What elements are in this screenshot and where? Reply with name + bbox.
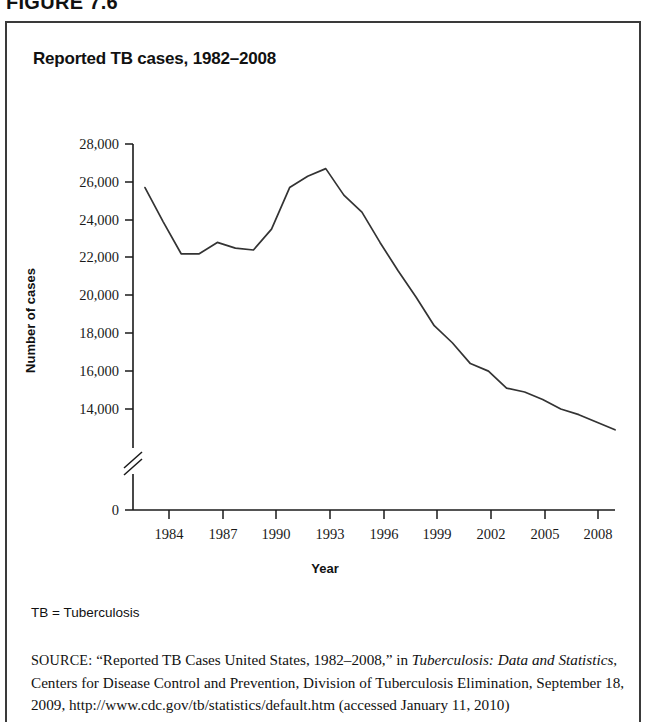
y-tick-label: 18,000 — [79, 325, 119, 341]
source-prefix: SOURCE: — [31, 652, 92, 668]
x-tick-label: 1990 — [262, 526, 291, 542]
x-tick-marks — [169, 510, 598, 519]
x-tick-label: 1993 — [316, 526, 345, 542]
x-tick-label: 1984 — [155, 526, 185, 542]
data-series-line — [145, 169, 615, 430]
x-tick-label: 2008 — [584, 526, 613, 542]
source-note: SOURCE: “Reported TB Cases United States… — [31, 649, 631, 717]
y-tick-label: 14,000 — [79, 401, 119, 417]
axis-break-icon — [124, 452, 142, 475]
x-tick-label: 1999 — [423, 526, 452, 542]
source-publication-title: Tuberculosis: Data and Statistics — [412, 651, 614, 668]
y-tick-label: 16,000 — [79, 363, 119, 379]
y-tick-label: 22,000 — [79, 249, 119, 265]
x-tick-label: 2002 — [477, 526, 506, 542]
x-tick-label: 1996 — [370, 526, 399, 542]
figure-label: FIGURE 7.6 — [6, 0, 118, 14]
x-tick-label: 1987 — [209, 526, 238, 542]
y-tick-label: 28,000 — [79, 136, 119, 152]
y-tick-label: 20,000 — [79, 287, 119, 303]
y-tick-marks — [125, 144, 133, 510]
source-part-one: “Reported TB Cases United States, 1982–2… — [92, 651, 411, 668]
line-chart-svg: 28,000 26,000 24,000 22,000 20,000 18,00… — [7, 23, 643, 583]
y-tick-label: 0 — [112, 502, 119, 518]
y-tick-label: 26,000 — [79, 174, 119, 190]
figure-box: Reported TB cases, 1982–2008 Number of c… — [5, 21, 641, 722]
y-tick-label: 24,000 — [79, 212, 119, 228]
footnote-abbreviation: TB = Tuberculosis — [31, 605, 139, 620]
x-tick-label: 2005 — [531, 526, 560, 542]
plot-area: 28,000 26,000 24,000 22,000 20,000 18,00… — [7, 23, 643, 583]
